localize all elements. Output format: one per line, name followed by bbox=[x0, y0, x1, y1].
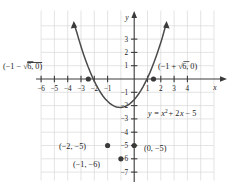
equation-label: y=x2+ 2x− 5 bbox=[147, 108, 196, 118]
annotation-root-left-text: (−1 − √6, 0) bbox=[3, 62, 42, 71]
annotation-vertex: (−1, −6) bbox=[73, 160, 100, 169]
y-tick-label--4: −4 bbox=[121, 129, 129, 137]
annotation-root-right: (−1 + √6, 0) bbox=[158, 62, 197, 71]
annotation-root-right-radicand: 6, 0) bbox=[182, 62, 197, 71]
y-tick-label--1: −1 bbox=[121, 89, 129, 97]
equation-y: y bbox=[147, 109, 152, 118]
point-vertex bbox=[118, 156, 123, 161]
annotation-point-right: (0, −5) bbox=[144, 144, 167, 153]
x-tick-label-4: 4 bbox=[186, 85, 190, 93]
x-tick-label--5: −5 bbox=[51, 85, 59, 93]
x-axis-label: x bbox=[212, 83, 217, 92]
equation-minus-5: − 5 bbox=[186, 109, 197, 118]
annotation-root-left-prefix: (−1 − bbox=[3, 62, 23, 71]
equation-x2: x bbox=[179, 109, 184, 118]
equation-equals: = bbox=[154, 109, 159, 118]
y-tick-label-1: 1 bbox=[125, 62, 129, 70]
x-tick-label--4: −4 bbox=[64, 85, 72, 93]
equation-exponent: 2 bbox=[165, 108, 168, 114]
x-tick-label-3: 3 bbox=[172, 85, 176, 93]
annotation-root-left: (−1 − √6, 0) bbox=[3, 62, 42, 71]
y-axis-label: y bbox=[124, 13, 129, 22]
y-tick-label--7: −7 bbox=[121, 169, 129, 177]
y-tick-label--5: −5 bbox=[121, 142, 129, 150]
graph-figure: −6 −5 −4 −3 −2 −1 1 2 3 4 3 2 1 −1 −2 −3… bbox=[0, 0, 233, 194]
x-tick-label--3: −3 bbox=[77, 85, 85, 93]
coordinate-plane-svg: −6 −5 −4 −3 −2 −1 1 2 3 4 3 2 1 −1 −2 −3… bbox=[0, 0, 233, 194]
x-tick-label--6: −6 bbox=[37, 85, 45, 93]
equation-plus-2: + 2 bbox=[169, 109, 180, 118]
y-tick-label-2: 2 bbox=[125, 49, 129, 57]
annotation-root-right-prefix: (−1 + bbox=[158, 62, 178, 71]
annotation-root-left-radicand: 6, 0) bbox=[27, 62, 42, 71]
point-neg2-neg5 bbox=[105, 143, 110, 148]
y-tick-label--3: −3 bbox=[121, 115, 129, 123]
x-tick-label--1: −1 bbox=[104, 85, 112, 93]
point-0-neg5 bbox=[132, 143, 137, 148]
point-root-right bbox=[151, 76, 156, 81]
x-tick-label-1: 1 bbox=[146, 85, 150, 93]
point-root-left bbox=[86, 76, 91, 81]
annotation-root-right-text: (−1 + √6, 0) bbox=[158, 62, 197, 71]
x-tick-label-2: 2 bbox=[159, 85, 163, 93]
annotation-point-left: (−2, −5) bbox=[59, 142, 86, 151]
figure-background bbox=[0, 0, 233, 194]
y-tick-label-3: 3 bbox=[125, 36, 129, 44]
